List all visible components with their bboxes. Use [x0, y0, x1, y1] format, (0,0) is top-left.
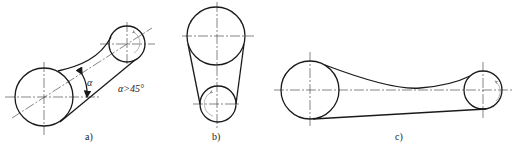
rotation-arrow-icon: [495, 81, 500, 101]
belt-drive-diagram: α α>45° a) b) c): [0, 0, 516, 148]
panel-b: b): [182, 2, 254, 143]
belt-slack-side: [325, 65, 470, 88]
alpha-condition-text: α>45°: [118, 83, 144, 94]
panel-label-b: b): [212, 131, 220, 143]
panel-a: α α>45° a): [5, 22, 155, 143]
panel-c: c): [274, 52, 512, 143]
rotation-arrow-icon: [204, 93, 213, 116]
belt-slack-side: [58, 37, 111, 71]
alpha-symbol: α: [87, 77, 93, 88]
belt-left-side: [188, 44, 200, 104]
panel-label-c: c): [395, 131, 403, 143]
belt-tight-side: [313, 109, 486, 119]
panel-label-a: a): [85, 131, 93, 143]
